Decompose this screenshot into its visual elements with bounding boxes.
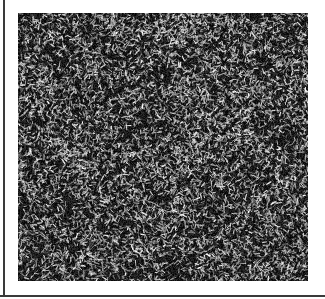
- bottom-frame-border: [0, 295, 325, 297]
- left-frame-border: [3, 0, 5, 297]
- texture-image: [18, 13, 308, 281]
